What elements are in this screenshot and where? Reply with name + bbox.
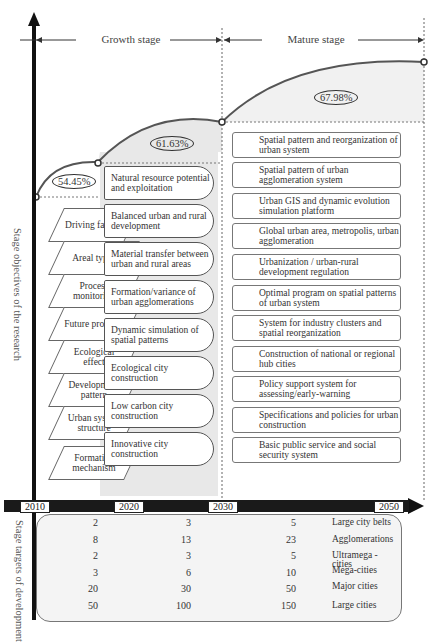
mature-objective-6: Optimal program on spatial patterns of u… bbox=[232, 285, 401, 311]
growth-objective-7: Low carbon city construction bbox=[104, 394, 214, 428]
targets-axis-label: Stage targets of development bbox=[14, 520, 25, 642]
year-2030: 2030 bbox=[208, 501, 238, 513]
table-row: 235Ultramega - cities bbox=[36, 549, 400, 562]
mature-stage-label: Mature stage bbox=[278, 33, 354, 45]
objectives-axis-label: Stage objectives of the research bbox=[12, 228, 23, 361]
table-row: 81323Agglomerations bbox=[36, 533, 400, 546]
mature-objective-11: Basic public service and social security… bbox=[232, 437, 401, 463]
growth-objective-8: Innovative city construction bbox=[104, 432, 214, 466]
timeline-bar bbox=[4, 500, 409, 512]
growth-objective-2: Balanced urban and rural development bbox=[104, 204, 214, 238]
growth-objective-1: Natural resource potential and exploitat… bbox=[104, 166, 214, 200]
growth-objective-6: Ecological city construction bbox=[104, 356, 214, 390]
year-2010: 2010 bbox=[20, 501, 50, 513]
percent-2020: 61.63% bbox=[150, 136, 194, 151]
growth-objective-3: Material transfer between urban and rura… bbox=[104, 242, 214, 276]
mature-objective-10: Specifications and policies for urban co… bbox=[232, 407, 401, 433]
year-2050: 2050 bbox=[374, 501, 404, 513]
year-2020: 2020 bbox=[114, 501, 144, 513]
mature-objective-1: Spatial pattern and reorganization of ur… bbox=[232, 132, 401, 158]
percent-2030: 67.98% bbox=[314, 90, 358, 105]
growth-objective-5: Dynamic simulation of spatial patterns bbox=[104, 318, 214, 352]
table-row bbox=[36, 604, 400, 617]
mature-objective-2: Spatial pattern of urban agglomeration s… bbox=[232, 162, 401, 188]
mature-objective-5: Urbanization / urban-rural development r… bbox=[232, 254, 401, 280]
mature-objective-4: Global urban area, metropolis, urban agg… bbox=[232, 223, 401, 249]
mature-objective-3: Urban GIS and dynamic evolution simulati… bbox=[232, 193, 401, 219]
growth-objective-4: Formation/variance of urban agglomeratio… bbox=[104, 280, 214, 314]
table-row: 203050Major cities bbox=[36, 582, 400, 595]
mature-objective-9: Policy support system for assessing/earl… bbox=[232, 376, 401, 402]
percent-2010: 54.45% bbox=[52, 174, 96, 189]
table-row: 3610Mega-cities bbox=[36, 566, 400, 579]
mature-objective-7: System for industry clusters and spatial… bbox=[232, 315, 401, 341]
growth-stage-label: Growth stage bbox=[96, 33, 166, 45]
mature-objective-8: Construction of national or regional hub… bbox=[232, 346, 401, 372]
table-row: 235Large city belts bbox=[36, 516, 400, 529]
